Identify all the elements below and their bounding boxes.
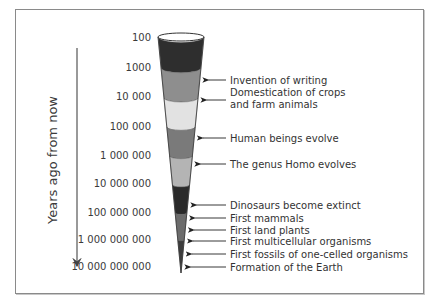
event-label: Domestication of crops xyxy=(230,87,345,98)
event-label: Dinosaurs become extinct xyxy=(230,200,361,211)
axis-label: Years ago from now xyxy=(45,96,60,225)
cone-band xyxy=(161,68,201,102)
tick-label: 10 000 000 xyxy=(94,178,151,189)
event-label: Formation of the Earth xyxy=(230,262,343,273)
event-labels: Invention of writingDomestication of cro… xyxy=(191,75,408,273)
cone-band xyxy=(170,156,193,187)
event-label: First fossils of one-celled organisms xyxy=(230,249,408,260)
tick-label: 1000 xyxy=(126,62,151,73)
time-cone xyxy=(158,33,204,273)
cone-band xyxy=(164,98,198,130)
event-label: First multicellular organisms xyxy=(230,236,371,247)
event-label: First mammals xyxy=(230,213,304,224)
cone-band xyxy=(175,213,187,241)
event-label: The genus Homo evolves xyxy=(229,159,356,170)
event-label: Invention of writing xyxy=(230,75,327,86)
event-label: Human beings evolve xyxy=(230,133,339,144)
geologic-time-cone-diagram: Years ago from now 100100010 000100 0001… xyxy=(0,0,429,306)
cone-band xyxy=(167,127,195,159)
tick-label: 1 000 000 xyxy=(100,150,151,161)
tick-label: 100 000 000 xyxy=(87,207,151,218)
tick-label: 100 000 xyxy=(110,121,151,132)
tick-label: 10 000 000 000 xyxy=(71,261,151,272)
tick-labels: 100100010 000100 0001 000 00010 000 0001… xyxy=(71,32,151,272)
tick-label: 1 000 000 000 xyxy=(78,234,151,245)
cone-top-opening xyxy=(158,33,204,41)
cone-band xyxy=(178,240,184,273)
event-label: First land plants xyxy=(230,225,310,236)
tick-label: 100 xyxy=(132,32,151,43)
event-label: and farm animals xyxy=(230,99,318,110)
tick-label: 10 000 xyxy=(116,91,151,102)
cone-band xyxy=(158,37,204,73)
